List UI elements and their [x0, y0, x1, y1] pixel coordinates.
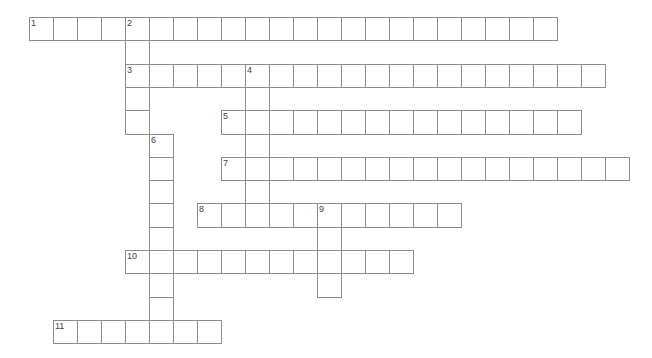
crossword-cell[interactable]: [581, 157, 606, 181]
crossword-cell[interactable]: 3: [125, 64, 150, 88]
crossword-cell[interactable]: [533, 64, 558, 88]
crossword-cell[interactable]: [149, 320, 174, 344]
crossword-cell[interactable]: [149, 227, 174, 251]
crossword-cell[interactable]: [413, 110, 438, 135]
crossword-cell[interactable]: [485, 64, 510, 88]
crossword-cell[interactable]: [101, 17, 126, 41]
crossword-cell[interactable]: 4: [245, 64, 270, 88]
crossword-cell[interactable]: [413, 64, 438, 88]
crossword-cell[interactable]: [221, 64, 246, 88]
crossword-cell[interactable]: [533, 110, 558, 135]
crossword-cell[interactable]: [341, 203, 366, 228]
crossword-cell[interactable]: [437, 203, 462, 228]
crossword-cell[interactable]: [53, 17, 78, 41]
crossword-cell[interactable]: [365, 157, 390, 181]
crossword-cell[interactable]: 5: [221, 110, 246, 135]
crossword-cell[interactable]: [149, 273, 174, 298]
crossword-cell[interactable]: [317, 157, 342, 181]
crossword-cell[interactable]: [317, 250, 342, 274]
crossword-cell[interactable]: [389, 250, 414, 274]
crossword-cell[interactable]: [341, 110, 366, 135]
crossword-cell[interactable]: [293, 203, 318, 228]
crossword-cell[interactable]: [221, 17, 246, 41]
crossword-cell[interactable]: [245, 87, 270, 111]
crossword-cell[interactable]: [365, 64, 390, 88]
crossword-cell[interactable]: [437, 17, 462, 41]
crossword-cell[interactable]: [221, 203, 246, 228]
crossword-cell[interactable]: [173, 64, 198, 88]
crossword-cell[interactable]: [197, 320, 222, 344]
crossword-cell[interactable]: [317, 273, 342, 298]
crossword-cell[interactable]: [533, 157, 558, 181]
crossword-cell[interactable]: [317, 227, 342, 251]
crossword-cell[interactable]: [437, 157, 462, 181]
crossword-cell[interactable]: [509, 157, 534, 181]
crossword-cell[interactable]: [269, 64, 294, 88]
crossword-cell[interactable]: [557, 110, 582, 135]
crossword-cell[interactable]: [437, 110, 462, 135]
crossword-cell[interactable]: [365, 250, 390, 274]
crossword-cell[interactable]: [557, 157, 582, 181]
crossword-cell[interactable]: [389, 203, 414, 228]
crossword-cell[interactable]: [293, 64, 318, 88]
crossword-cell[interactable]: [269, 203, 294, 228]
crossword-cell[interactable]: [485, 157, 510, 181]
crossword-cell[interactable]: [149, 17, 174, 41]
crossword-cell[interactable]: [245, 157, 270, 181]
crossword-cell[interactable]: [245, 180, 270, 204]
crossword-cell[interactable]: [125, 110, 150, 135]
crossword-cell[interactable]: [341, 64, 366, 88]
crossword-cell[interactable]: [341, 250, 366, 274]
crossword-cell[interactable]: [413, 157, 438, 181]
crossword-cell[interactable]: 2: [125, 17, 150, 41]
crossword-cell[interactable]: [245, 134, 270, 158]
crossword-cell[interactable]: [269, 17, 294, 41]
crossword-cell[interactable]: [125, 40, 150, 65]
crossword-cell[interactable]: [149, 250, 174, 274]
crossword-cell[interactable]: [101, 320, 126, 344]
crossword-cell[interactable]: [341, 17, 366, 41]
crossword-cell[interactable]: [413, 203, 438, 228]
crossword-cell[interactable]: 11: [53, 320, 78, 344]
crossword-cell[interactable]: [317, 110, 342, 135]
crossword-cell[interactable]: [221, 250, 246, 274]
crossword-cell[interactable]: [389, 64, 414, 88]
crossword-cell[interactable]: [605, 157, 630, 181]
crossword-cell[interactable]: 8: [197, 203, 222, 228]
crossword-cell[interactable]: [149, 297, 174, 321]
crossword-cell[interactable]: [461, 17, 486, 41]
crossword-cell[interactable]: [557, 64, 582, 88]
crossword-cell[interactable]: [125, 87, 150, 111]
crossword-cell[interactable]: [317, 64, 342, 88]
crossword-cell[interactable]: [293, 110, 318, 135]
crossword-cell[interactable]: 10: [125, 250, 150, 274]
crossword-cell[interactable]: [365, 110, 390, 135]
crossword-cell[interactable]: [389, 110, 414, 135]
crossword-cell[interactable]: [341, 157, 366, 181]
crossword-cell[interactable]: [149, 64, 174, 88]
crossword-cell[interactable]: [245, 250, 270, 274]
crossword-cell[interactable]: [389, 17, 414, 41]
crossword-cell[interactable]: [293, 17, 318, 41]
crossword-cell[interactable]: [581, 64, 606, 88]
crossword-cell[interactable]: [485, 17, 510, 41]
crossword-cell[interactable]: 7: [221, 157, 246, 181]
crossword-cell[interactable]: [125, 320, 150, 344]
crossword-cell[interactable]: [77, 320, 102, 344]
crossword-cell[interactable]: [173, 17, 198, 41]
crossword-cell[interactable]: [413, 17, 438, 41]
crossword-cell[interactable]: [509, 110, 534, 135]
crossword-cell[interactable]: [149, 203, 174, 228]
crossword-cell[interactable]: [485, 110, 510, 135]
crossword-cell[interactable]: [461, 157, 486, 181]
crossword-cell[interactable]: [245, 203, 270, 228]
crossword-cell[interactable]: [365, 203, 390, 228]
crossword-cell[interactable]: [197, 250, 222, 274]
crossword-cell[interactable]: [77, 17, 102, 41]
crossword-cell[interactable]: [461, 64, 486, 88]
crossword-cell[interactable]: [365, 17, 390, 41]
crossword-cell[interactable]: [269, 157, 294, 181]
crossword-cell[interactable]: [269, 250, 294, 274]
crossword-cell[interactable]: 1: [29, 17, 54, 41]
crossword-cell[interactable]: [293, 157, 318, 181]
